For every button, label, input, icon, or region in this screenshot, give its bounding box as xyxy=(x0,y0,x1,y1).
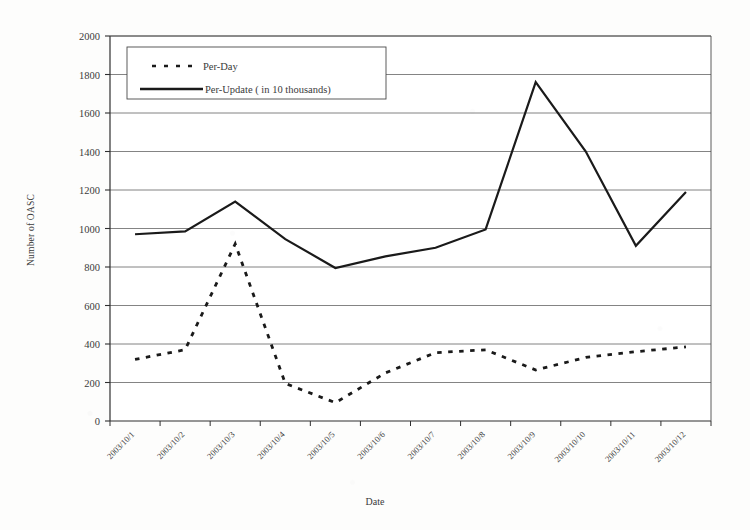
chart-legend: Per-Day Per-Update ( in 10 thousands) xyxy=(127,47,386,99)
x-tick-label: 2003/10/7 xyxy=(405,429,437,461)
x-tick-label: 2003/10/3 xyxy=(205,429,237,461)
y-tick-label: 1600 xyxy=(79,108,100,119)
x-tick-label: 2003/10/9 xyxy=(505,429,537,461)
y-tick-label: 0 xyxy=(95,416,100,427)
chart-plot-area: 0200400600800100012001400160018002000 20… xyxy=(0,0,750,530)
x-axis-ticks: 2003/10/12003/10/22003/10/32003/10/42003… xyxy=(105,421,711,464)
y-tick-label: 800 xyxy=(84,262,100,273)
x-tick-label: 2003/10/12 xyxy=(653,429,688,464)
x-tick-label: 2003/10/6 xyxy=(355,429,387,461)
y-axis-ticks: 0200400600800100012001400160018002000 xyxy=(79,31,110,427)
legend-label-per-day: Per-Day xyxy=(203,61,239,72)
chart-figure: Number of OASC 0200400600800100012001400… xyxy=(0,0,750,530)
legend-label-per-update: Per-Update ( in 10 thousands) xyxy=(205,84,331,96)
y-tick-label: 1800 xyxy=(79,70,100,81)
x-tick-label: 2003/10/4 xyxy=(255,429,287,461)
x-tick-label: 2003/10/10 xyxy=(552,429,587,464)
x-tick-label: 2003/10/5 xyxy=(305,429,337,461)
y-tick-label: 1200 xyxy=(79,185,100,196)
x-tick-label: 2003/10/8 xyxy=(455,429,487,461)
y-tick-label: 200 xyxy=(84,378,100,389)
x-axis-title: Date xyxy=(0,496,750,507)
y-tick-label: 1000 xyxy=(79,224,100,235)
x-tick-label: 2003/10/2 xyxy=(155,429,187,461)
x-tick-label: 2003/10/1 xyxy=(105,429,137,461)
y-tick-label: 400 xyxy=(84,339,100,350)
y-tick-label: 1400 xyxy=(79,147,100,158)
y-tick-label: 2000 xyxy=(79,31,100,42)
x-tick-label: 2003/10/11 xyxy=(603,429,638,464)
y-tick-label: 600 xyxy=(84,301,100,312)
